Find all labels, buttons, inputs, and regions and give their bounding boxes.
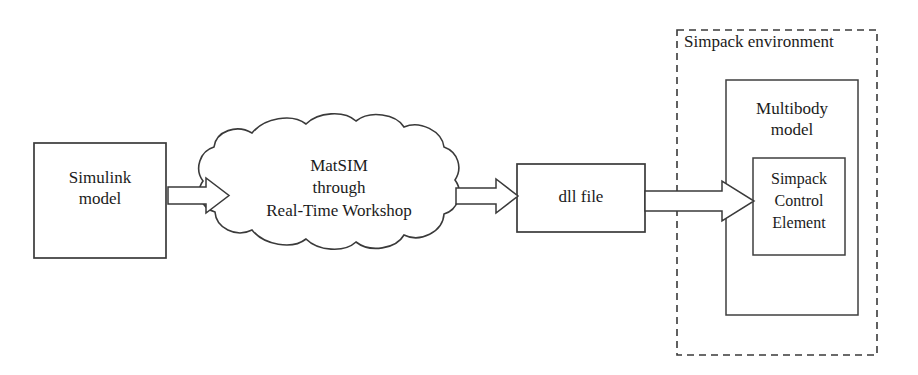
simulink-model-box: [34, 143, 166, 258]
matsim-cloud-shape: [199, 114, 460, 249]
diagram-canvas: [0, 0, 918, 375]
arrow-matsim-to-dll: [456, 179, 518, 213]
dll-file-box: [517, 164, 645, 232]
simpack-control-element-box: [753, 158, 845, 255]
diagram-root: Simulink model MatSIM through Real-Time …: [0, 0, 918, 375]
